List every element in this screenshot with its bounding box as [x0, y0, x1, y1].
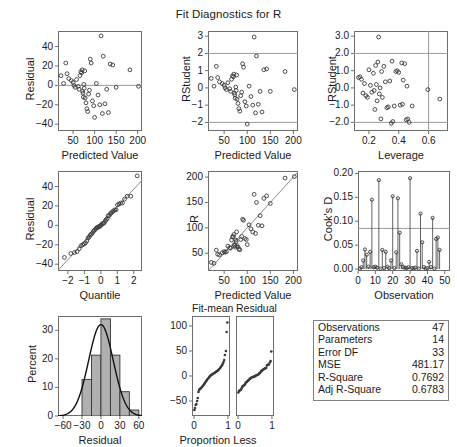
x-tick-label: 2 [114, 275, 154, 286]
x-axis-label: Observation [348, 289, 457, 301]
x-tick-label: 0.6 [409, 135, 449, 146]
y-axis-label: Percent [26, 299, 38, 429]
y-axis-label: RStudent [326, 14, 338, 144]
x-tick-label: 50 [425, 275, 457, 286]
panel-subtitle: Residual [236, 302, 274, 314]
panel-subtitle: Fit-mean [192, 302, 230, 314]
y-tick-label: 100 [145, 320, 187, 331]
plot-residual-histogram: −60−30030600102030ResidualPercent [0, 304, 152, 444]
x-axis-label: Predicted Value [198, 149, 308, 161]
plot-residual-vs-predicted: 50100150200−40−2002040Predicted ValueRes… [0, 24, 152, 156]
plot-rstudent-vs-predicted: 50100150200−2−10123Predicted ValueRStude… [152, 24, 304, 156]
y-axis-label: Residual [24, 14, 36, 144]
x-axis-label: Predicted Value [48, 149, 152, 161]
plot-residual-qq: 01Residual [232, 304, 308, 444]
stats-label: Observations [314, 321, 400, 333]
fit-statistics-table: Observations47Parameters14Error DF33MSE4… [313, 320, 449, 401]
plot-qq-residual: −2−1012−40−2002040QuantileResidual [0, 164, 152, 296]
x-axis-label: Quantile [48, 289, 152, 301]
stats-row: MSE481.17 [314, 358, 448, 370]
x-axis-label: Predicted Value [198, 289, 308, 301]
y-tick-label: 0 [145, 370, 187, 381]
stats-value: 0.7692 [400, 371, 448, 383]
stats-label: Parameters [314, 333, 400, 345]
page-title: Fit Diagnostics for R [0, 8, 457, 20]
stats-label: MSE [314, 358, 400, 370]
y-axis-label: R [188, 154, 200, 284]
stats-row: Adj R-Square0.6783 [314, 383, 448, 395]
stats-value: 33 [400, 346, 448, 358]
fit-diagnostics-panel: Fit Diagnostics for R 50100150200−40−200… [0, 0, 457, 447]
stats-row: Error DF33 [314, 346, 448, 358]
x-axis-label: Residual [48, 434, 152, 446]
y-axis-label: Cook's D [322, 154, 334, 284]
stats-label: Adj R-Square [314, 383, 400, 395]
y-tick-label: 50 [145, 345, 187, 356]
y-axis-label: Residual [24, 154, 36, 284]
stats-value: 14 [400, 333, 448, 345]
stats-label: R-Square [314, 371, 400, 383]
stats-value: 481.17 [400, 358, 448, 370]
x-tick-label: 1 [252, 420, 292, 431]
plot-observed-vs-predicted: 5010015020050100150200Predicted ValueR [152, 164, 304, 296]
stats-value: 47 [400, 321, 448, 333]
stats-row: R-Square0.7692 [314, 371, 448, 383]
x-axis-label: Leverage [344, 149, 457, 161]
y-tick-label: −50 [145, 395, 187, 406]
stats-row: Observations47 [314, 321, 448, 333]
plot-cooks-distance: 010203040500.000.050.100.150.20Observati… [304, 164, 457, 296]
stats-value: 0.6783 [400, 383, 448, 395]
stats-label: Error DF [314, 346, 400, 358]
plot-rstudent-vs-leverage: 0.20.40.6−2.0−1.00.01.02.03.0LeverageRSt… [304, 24, 457, 156]
y-axis-label: RStudent [180, 14, 192, 144]
stats-row: Parameters14 [314, 333, 448, 345]
